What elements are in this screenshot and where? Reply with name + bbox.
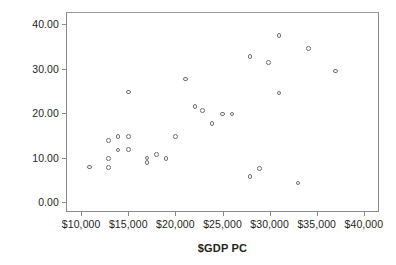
y-axis-tick (62, 24, 67, 25)
data-point (248, 174, 253, 179)
data-point (333, 69, 338, 74)
data-point (183, 77, 188, 82)
x-axis-tick (270, 211, 271, 216)
y-axis-tick (62, 113, 67, 114)
data-point (164, 156, 169, 161)
data-point (277, 91, 282, 96)
data-point (220, 112, 225, 117)
x-axis-tick-label: $15,000 (109, 218, 148, 230)
x-axis-title: $GDP PC (66, 242, 379, 254)
y-axis-tick-label: 40.00 (32, 18, 59, 30)
data-point (230, 112, 235, 117)
plot-area (67, 13, 378, 211)
y-axis-tick (62, 69, 67, 70)
data-point (126, 134, 131, 139)
data-point (200, 108, 205, 113)
x-axis-tick-label: $10,000 (62, 218, 101, 230)
data-point (277, 33, 282, 38)
x-axis-tick-label: $25,000 (203, 218, 242, 230)
data-point (126, 90, 131, 95)
data-point (116, 134, 121, 139)
data-point (116, 148, 121, 153)
y-axis-tick-label: 10.00 (32, 152, 59, 164)
x-axis-tick (128, 211, 129, 216)
x-axis-tick (223, 211, 224, 216)
data-point (106, 156, 111, 161)
data-point (266, 60, 271, 65)
data-point (145, 160, 150, 165)
y-axis-tick (62, 202, 67, 203)
y-axis-tick-label: 30.00 (32, 63, 59, 75)
y-axis-tick-label: 0.00 (38, 196, 59, 208)
x-axis-tick-label: $20,000 (156, 218, 195, 230)
data-point (126, 147, 131, 152)
x-axis-tick (364, 211, 365, 216)
data-point (106, 165, 111, 170)
x-axis-tick (317, 211, 318, 216)
data-point (87, 165, 92, 170)
plot-frame: 0.0010.0020.0030.0040.00$10,000$15,000$2… (66, 12, 379, 212)
data-point (306, 46, 311, 51)
scatter-chart-figure: 0.0010.0020.0030.0040.00$10,000$15,000$2… (0, 0, 396, 265)
x-axis-tick (81, 211, 82, 216)
data-point (248, 54, 253, 59)
x-axis-tick-label: $40,000 (345, 218, 384, 230)
data-point (257, 166, 262, 171)
x-axis-tick-label: $30,000 (250, 218, 289, 230)
data-point (106, 138, 111, 143)
data-point (154, 152, 159, 157)
data-point (210, 121, 215, 126)
x-axis-tick (175, 211, 176, 216)
x-axis-tick-label: $35,000 (297, 218, 336, 230)
y-axis-tick-label: 20.00 (32, 107, 59, 119)
data-point (193, 104, 198, 109)
data-point (296, 181, 301, 186)
y-axis-tick (62, 158, 67, 159)
data-point (173, 134, 178, 139)
